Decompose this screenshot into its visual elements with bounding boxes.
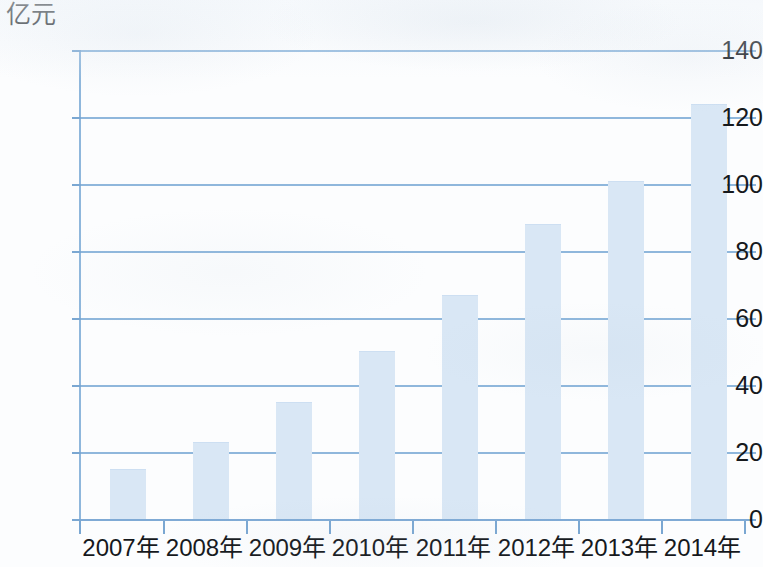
x-tick-label-2013: 2013年 [578, 536, 661, 560]
y-tick-mark-20 [72, 452, 81, 454]
bar-2009 [276, 402, 312, 520]
gridline-120 [80, 117, 756, 119]
plot-area [0, 0, 763, 567]
y-tick-mark-120 [72, 117, 81, 119]
x-tick-label-2014: 2014年 [661, 536, 744, 560]
x-tick-mark-4 [412, 521, 414, 534]
x-tick-label-2012: 2012年 [495, 536, 578, 560]
x-tick-label-2007: 2007年 [79, 536, 163, 560]
bar-2008 [193, 442, 229, 520]
x-tick-label-2009: 2009年 [246, 536, 329, 560]
x-tick-label-2010: 2010年 [329, 536, 412, 560]
gridline-20 [80, 452, 756, 454]
y-tick-label-40: 40 [699, 373, 763, 398]
y-tick-label-20: 20 [699, 440, 763, 465]
y-tick-mark-40 [72, 385, 81, 387]
y-tick-label-120: 120 [699, 105, 763, 130]
bar-2013 [608, 181, 644, 520]
gridline-140 [80, 50, 756, 52]
x-axis-line [78, 519, 756, 521]
gridline-40 [80, 385, 756, 387]
y-tick-label-0: 0 [699, 507, 763, 532]
y-tick-mark-60 [72, 318, 81, 320]
gridline-100 [80, 184, 756, 186]
x-tick-mark-3 [329, 521, 331, 534]
y-tick-mark-80 [72, 251, 81, 253]
gridline-80 [80, 251, 756, 253]
x-tick-mark-1 [163, 521, 165, 534]
x-tick-mark-5 [495, 521, 497, 534]
y-axis-line [79, 50, 81, 521]
x-tick-mark-6 [578, 521, 580, 534]
y-tick-mark-100 [72, 184, 81, 186]
bar-2010 [359, 351, 395, 520]
bar-2012 [525, 224, 561, 520]
y-tick-label-100: 100 [699, 172, 763, 197]
x-tick-mark-0 [79, 521, 81, 534]
x-tick-label-2011: 2011年 [412, 536, 495, 560]
y-tick-label-60: 60 [699, 306, 763, 331]
y-tick-label-140: 140 [699, 38, 763, 63]
y-tick-mark-140 [72, 50, 81, 52]
x-tick-label-2008: 2008年 [163, 536, 246, 560]
bar-2011 [442, 295, 478, 520]
x-tick-mark-7 [661, 521, 663, 534]
x-tick-mark-2 [246, 521, 248, 534]
gridline-60 [80, 318, 756, 320]
y-tick-label-80: 80 [699, 239, 763, 264]
chart-figure: 亿元 [0, 0, 763, 567]
bar-2007 [110, 469, 146, 520]
